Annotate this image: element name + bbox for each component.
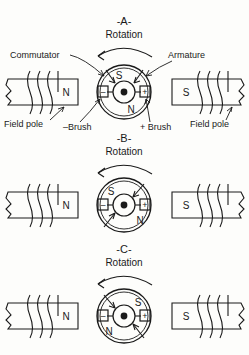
panel-b-rotor-label-s: S (108, 186, 115, 197)
motor-rotation-figure: -A- Rotation Commutator Armature N (0, 0, 249, 355)
panel-a-rotor-label-s: S (116, 70, 123, 81)
panel-c-rotation-label: Rotation (105, 257, 142, 268)
panel-c-shaft-center (121, 313, 128, 320)
panel-c-right-pole-label: S (183, 311, 190, 322)
panel-b-rotor-label-n: N (136, 215, 143, 226)
panel-b-right-pole-label: S (183, 200, 190, 211)
svg-text:+: + (142, 311, 147, 321)
panel-a-rotation-label: Rotation (105, 29, 142, 40)
svg-text:+: + (142, 87, 147, 97)
callout-field-pole-left-label: Field pole (4, 119, 43, 129)
panel-a-left-pole-label: N (62, 87, 69, 98)
panel-b-caption: -B- (117, 132, 132, 144)
callout-brush-plus-label: + Brush (140, 122, 171, 132)
callout-brush-minus-label: –Brush (63, 122, 92, 132)
panel-a-rotor-label-n: N (127, 104, 134, 115)
panel-b-rotation-label: Rotation (105, 146, 142, 157)
svg-text:–: – (100, 87, 105, 97)
callout-armature-label: Armature (168, 50, 205, 60)
panel-a-caption: -A- (117, 15, 132, 27)
panel-a-right-pole-label: S (183, 87, 190, 98)
panel-a-shaft-center (121, 89, 128, 96)
svg-text:–: – (100, 311, 105, 321)
panel-c-rotor-label-n: N (105, 326, 112, 337)
callout-commutator-label: Commutator (10, 50, 60, 60)
panel-b-shaft-center (121, 202, 128, 209)
panel-c-caption: -C- (116, 243, 132, 255)
svg-text:+: + (142, 200, 147, 210)
callout-field-pole-right-label: Field pole (190, 119, 229, 129)
panel-c-rotor-label-s: S (135, 297, 142, 308)
panel-c-left-pole-label: N (62, 311, 69, 322)
svg-text:–: – (100, 200, 105, 210)
panel-b-left-pole-label: N (62, 200, 69, 211)
